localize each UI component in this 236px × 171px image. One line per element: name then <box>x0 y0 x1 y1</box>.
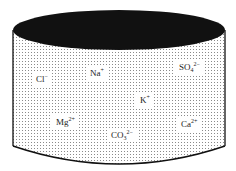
ion-magnesium: Mg2+ <box>52 115 79 129</box>
ion-chloride: Cl− <box>32 72 52 86</box>
cylinder-body <box>13 30 225 164</box>
ion-carbonate: CO32− <box>107 128 137 142</box>
ion-sodium: Na+ <box>86 66 108 80</box>
ion-calcium: Ca2+ <box>177 117 201 131</box>
ion-potassium: K+ <box>136 93 154 107</box>
cylinder-top-surface <box>13 10 225 50</box>
ion-sulfate: SO42− <box>175 60 204 74</box>
